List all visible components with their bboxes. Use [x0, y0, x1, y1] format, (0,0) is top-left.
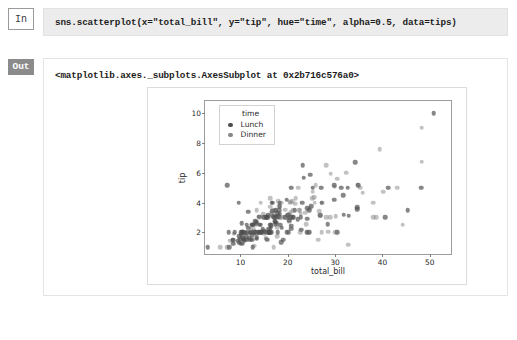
scatter-point	[316, 238, 321, 243]
y-tick-mark	[202, 173, 205, 174]
output-area: <matplotlib.axes._subplots.AxesSubplot a…	[43, 58, 508, 296]
legend-entry: Dinner	[225, 130, 266, 140]
legend-marker-icon	[228, 123, 233, 128]
scatter-point	[304, 222, 309, 227]
scatter-point	[395, 185, 400, 190]
scatter-point	[257, 214, 262, 219]
scatter-point	[279, 225, 284, 230]
scatter-point	[237, 240, 242, 245]
scatter-point	[319, 185, 324, 190]
scatter-point	[240, 230, 245, 235]
scatter-point	[333, 214, 338, 219]
scatter-point	[300, 200, 305, 205]
scatter-point	[374, 215, 379, 220]
scatter-point	[419, 185, 424, 190]
scatter-axes: 2468101020304050 total_bill tip time Lun…	[204, 100, 452, 255]
scatter-point	[346, 242, 351, 247]
scatter-point	[299, 227, 304, 232]
x-tick-mark	[240, 254, 241, 257]
scatter-point	[218, 245, 223, 250]
scatter-point	[377, 147, 382, 152]
scatter-point	[341, 193, 346, 198]
y-tick-mark	[202, 232, 205, 233]
output-cell: Out <matplotlib.axes._subplots.AxesSubpl…	[8, 58, 508, 296]
scatter-point	[305, 206, 310, 211]
x-tick-mark	[430, 254, 431, 257]
scatter-point	[258, 223, 263, 228]
scatter-point	[301, 176, 306, 181]
scatter-point	[400, 223, 405, 228]
y-tick-mark	[202, 113, 205, 114]
scatter-point	[246, 209, 251, 214]
x-tick-mark	[382, 254, 383, 257]
y-tick-label: 6	[196, 168, 201, 177]
code-editor[interactable]: sns.scatterplot(x="total_bill", y="tip",…	[43, 8, 508, 36]
x-axis-label: total_bill	[311, 267, 345, 276]
scatter-point	[285, 197, 290, 202]
notebook-container: In sns.scatterplot(x="total_bill", y="ti…	[0, 0, 517, 340]
scatter-point	[300, 163, 305, 168]
scatter-point	[248, 238, 253, 243]
scatter-point	[360, 190, 365, 195]
scatter-point	[227, 245, 232, 250]
scatter-point	[240, 221, 245, 226]
scatter-point	[310, 185, 315, 190]
legend-entries: LunchDinner	[225, 120, 266, 140]
y-tick-label: 4	[196, 198, 201, 207]
scatter-point	[267, 226, 272, 231]
y-tick-mark	[202, 143, 205, 144]
scatter-point	[259, 200, 264, 205]
scatter-point	[381, 189, 386, 194]
scatter-point	[287, 230, 292, 235]
x-tick-label: 10	[236, 258, 245, 267]
scatter-point	[328, 172, 333, 177]
scatter-point	[318, 213, 323, 218]
scatter-point	[297, 208, 302, 213]
scatter-point	[304, 230, 309, 235]
scatter-point	[275, 211, 280, 216]
scatter-point	[386, 185, 391, 190]
scatter-point	[356, 183, 361, 188]
scatter-point	[269, 200, 274, 205]
scatter-point	[383, 215, 388, 220]
scatter-point	[236, 200, 241, 205]
output-repr-text: <matplotlib.axes._subplots.AxesSubplot a…	[55, 70, 359, 81]
scatter-point	[254, 235, 259, 240]
scatter-point	[225, 183, 230, 188]
x-tick-mark	[288, 254, 289, 257]
x-tick-label: 30	[330, 258, 339, 267]
scatter-point	[339, 185, 344, 190]
scatter-point	[342, 212, 347, 217]
y-tick-mark	[202, 203, 205, 204]
scatter-point	[241, 238, 246, 243]
scatter-point	[271, 214, 276, 219]
x-tick-label: 40	[378, 258, 387, 267]
scatter-point	[320, 200, 325, 205]
scatter-point	[250, 233, 255, 238]
scatter-point	[226, 230, 231, 235]
legend-label: Lunch	[241, 120, 264, 130]
scatter-point	[289, 185, 294, 190]
scatter-point	[296, 185, 301, 190]
y-tick-label: 10	[192, 108, 201, 117]
scatter-point	[205, 245, 210, 250]
scatter-point	[245, 230, 250, 235]
scatter-point	[254, 208, 259, 213]
input-cell: In sns.scatterplot(x="total_bill", y="ti…	[8, 8, 508, 36]
scatter-point	[419, 159, 424, 164]
x-tick-mark	[335, 254, 336, 257]
scatter-point	[271, 245, 276, 250]
scatter-point	[273, 222, 278, 227]
scatter-point	[281, 238, 286, 243]
output-prompt-badge: Out	[8, 59, 34, 75]
legend-entry: Lunch	[225, 120, 266, 130]
legend: time LunchDinner	[219, 105, 275, 145]
scatter-point	[324, 215, 329, 220]
scatter-point	[355, 205, 360, 210]
scatter-point	[332, 183, 337, 188]
scatter-point	[246, 225, 251, 230]
scatter-point	[262, 215, 267, 220]
scatter-point	[335, 176, 340, 181]
scatter-point	[319, 230, 324, 235]
scatter-point	[308, 173, 313, 178]
